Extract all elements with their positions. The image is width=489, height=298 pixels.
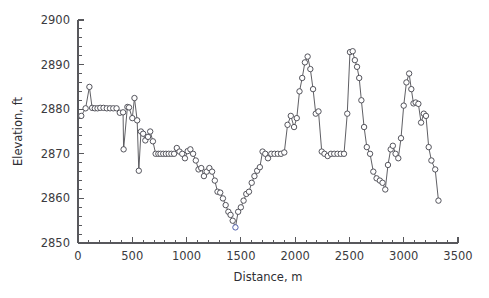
data-point-marker [285, 122, 290, 127]
data-point-marker [87, 84, 92, 89]
elevation-line [81, 51, 438, 227]
data-point-marker [398, 135, 403, 140]
data-point-marker [249, 180, 254, 185]
data-point-marker [291, 124, 296, 129]
data-point-marker [121, 147, 126, 152]
data-point-marker [193, 158, 198, 163]
data-point-marker [423, 113, 428, 118]
data-point-marker [136, 168, 141, 173]
data-point-marker [294, 115, 299, 120]
data-point-marker [246, 189, 251, 194]
y-axis-ticks [78, 20, 84, 243]
y-tick-label: 2850 [41, 236, 70, 250]
data-point-marker [150, 139, 155, 144]
data-point-marker [300, 75, 305, 80]
data-point-marker [350, 49, 355, 54]
data-point-marker [238, 205, 243, 210]
data-point-marker [288, 113, 293, 118]
data-point-marker [120, 110, 125, 115]
x-tick-label: 2000 [281, 249, 310, 263]
data-point-marker [140, 131, 145, 136]
data-point-marker [297, 89, 302, 94]
y-axis-tick-labels: 285028602870288028902900 [41, 13, 70, 250]
x-tick-label: 1500 [226, 249, 255, 263]
data-point-marker [359, 98, 364, 103]
data-point-marker [316, 109, 321, 114]
data-point-marker [212, 178, 217, 183]
data-point-marker [354, 64, 359, 69]
data-point-marker [433, 167, 438, 172]
data-point-marker [436, 198, 441, 203]
x-tick-label: 1000 [172, 249, 201, 263]
data-point-marker [385, 162, 390, 167]
chart-svg: 285028602870288028902900 050010001500200… [0, 0, 489, 298]
x-tick-label: 3000 [389, 249, 418, 263]
data-point-marker [367, 151, 372, 156]
data-point-marker [230, 218, 235, 223]
data-point-marker [352, 57, 357, 62]
elevation-markers [79, 49, 442, 231]
data-point-marker [233, 225, 238, 230]
data-point-marker [390, 143, 395, 148]
y-axis-title: Elevation, ft [11, 96, 25, 166]
data-point-marker [148, 129, 153, 134]
data-point-marker [282, 150, 287, 155]
data-point-marker [426, 144, 431, 149]
data-point-marker [406, 71, 411, 76]
x-tick-label: 0 [74, 249, 81, 263]
y-tick-label: 2900 [41, 13, 70, 27]
data-point-marker [302, 60, 307, 65]
data-point-marker [223, 202, 228, 207]
y-tick-label: 2890 [41, 58, 70, 72]
data-point-marker [134, 118, 139, 123]
elevation-profile-chart: 285028602870288028902900 050010001500200… [0, 0, 489, 298]
data-point-marker [404, 80, 409, 85]
data-point-marker [357, 75, 362, 80]
data-point-marker [182, 156, 187, 161]
x-axis-ticks [78, 237, 458, 243]
data-point-marker [218, 190, 223, 195]
axis-frame [78, 20, 458, 243]
data-point-marker [409, 86, 414, 91]
data-point-marker [228, 212, 233, 217]
data-point-marker [190, 151, 195, 156]
data-point-marker [383, 187, 388, 192]
y-tick-label: 2870 [41, 147, 70, 161]
data-point-marker [79, 113, 84, 118]
data-point-marker [145, 134, 150, 139]
data-point-marker [209, 169, 214, 174]
chart-page: 285028602870288028902900 050010001500200… [0, 0, 489, 298]
data-point-marker [380, 180, 385, 185]
y-tick-label: 2860 [41, 191, 70, 205]
data-point-marker [305, 54, 310, 59]
data-point-marker [126, 105, 131, 110]
data-point-marker [341, 151, 346, 156]
data-point-marker [83, 106, 88, 111]
data-point-marker [308, 66, 313, 71]
data-point-marker [199, 165, 204, 170]
data-point-marker [241, 198, 246, 203]
data-point-marker [361, 124, 366, 129]
data-point-marker [401, 103, 406, 108]
y-tick-label: 2880 [41, 102, 70, 116]
data-point-marker [364, 144, 369, 149]
data-point-marker [220, 196, 225, 201]
data-point-marker [310, 86, 315, 91]
x-axis-title: Distance, m [234, 270, 303, 284]
data-point-marker [396, 156, 401, 161]
data-point-marker [257, 164, 262, 169]
x-tick-label: 2500 [335, 249, 364, 263]
x-tick-label: 3500 [443, 249, 472, 263]
x-tick-label: 500 [121, 249, 143, 263]
data-point-marker [252, 173, 257, 178]
data-point-marker [132, 95, 137, 100]
data-point-marker [171, 151, 176, 156]
data-point-marker [345, 111, 350, 116]
data-series-layer [79, 49, 442, 231]
data-point-marker [371, 169, 376, 174]
data-point-marker [416, 101, 421, 106]
data-point-marker [418, 120, 423, 125]
data-point-marker [429, 158, 434, 163]
x-axis-tick-labels: 0500100015002000250030003500 [74, 249, 472, 263]
